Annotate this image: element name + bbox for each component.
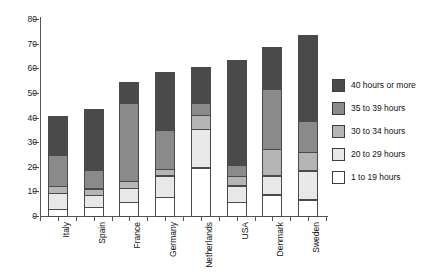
x-tick-mark: [129, 216, 130, 221]
bar-segment: [262, 195, 282, 217]
bar-segment: [119, 202, 139, 217]
plot-area: [40, 19, 326, 216]
bar-germany: [155, 72, 175, 216]
bar-segment: [84, 170, 104, 190]
chart-legend: 40 hours or more35 to 39 hours30 to 34 h…: [332, 74, 432, 189]
x-axis-label: France: [133, 222, 142, 248]
bar-segment: [155, 176, 175, 198]
bar-segment: [298, 152, 318, 172]
y-tick-label: 70: [13, 40, 37, 49]
bar-segment: [262, 176, 282, 196]
bar-segment: [155, 130, 175, 169]
bar-segment: [155, 197, 175, 217]
x-tick-mark: [308, 216, 309, 221]
x-tick-mark: [219, 216, 220, 221]
x-tick-mark: [255, 216, 256, 221]
bar-segment: [119, 103, 139, 182]
bar-segment: [227, 202, 247, 217]
bar-segment: [191, 168, 211, 217]
bar-netherlands: [191, 67, 211, 216]
y-tick-label: 80: [13, 15, 37, 24]
bar-segment: [298, 200, 318, 217]
x-tick-mark: [290, 216, 291, 221]
bar-segment: [227, 165, 247, 177]
x-axis-label: Netherlands: [205, 222, 214, 268]
legend-swatch: [332, 148, 345, 161]
legend-label: 1 to 19 hours: [351, 173, 401, 182]
x-tick-mark: [237, 216, 238, 221]
legend-swatch: [332, 102, 345, 115]
legend-label: 40 hours or more: [351, 81, 416, 90]
bar-segment: [48, 116, 68, 155]
bar-segment: [155, 72, 175, 131]
bar-segment: [227, 186, 247, 203]
legend-item: 20 to 29 hours: [332, 143, 432, 165]
x-tick-mark: [112, 216, 113, 221]
x-axis-label: Spain: [98, 222, 107, 244]
y-tick-label: 30: [13, 138, 37, 147]
chart-root: 80706050403020100 ItalySpainFranceGerman…: [0, 0, 433, 280]
legend-swatch: [332, 125, 345, 138]
bar-segment: [298, 35, 318, 121]
legend-item: 1 to 19 hours: [332, 166, 432, 188]
bar-segment: [119, 82, 139, 104]
bar-segment: [262, 47, 282, 89]
bar-segment: [298, 171, 318, 201]
x-axis-label: Italy: [62, 222, 71, 238]
y-tick-label: 10: [13, 187, 37, 196]
bar-usa: [227, 60, 247, 216]
bar-spain: [84, 109, 104, 216]
legend-label: 20 to 29 hours: [351, 150, 405, 159]
bar-segment: [191, 129, 211, 168]
y-tick-label: 40: [13, 114, 37, 123]
bar-segment: [191, 103, 211, 115]
x-tick-mark: [272, 216, 273, 221]
x-axis-label: Denmark: [276, 222, 285, 256]
y-tick-label: 60: [13, 64, 37, 73]
x-tick-mark: [183, 216, 184, 221]
x-tick-mark: [76, 216, 77, 221]
bar-segment: [298, 121, 318, 153]
bar-denmark: [262, 47, 282, 216]
bar-segment: [48, 209, 68, 216]
bar-segment: [84, 195, 104, 207]
bar-italy: [48, 116, 68, 216]
x-tick-mark: [326, 216, 327, 221]
bar-segment: [262, 149, 282, 176]
x-tick-mark: [165, 216, 166, 221]
bar-segment: [262, 89, 282, 151]
y-tick-label: 0: [13, 212, 37, 221]
x-tick-mark: [94, 216, 95, 221]
bar-sweden: [298, 35, 318, 216]
x-tick-mark: [58, 216, 59, 221]
bar-segment: [48, 155, 68, 187]
bar-segment: [119, 188, 139, 203]
legend-item: 40 hours or more: [332, 74, 432, 96]
bar-france: [119, 82, 139, 216]
legend-item: 35 to 39 hours: [332, 97, 432, 119]
bar-segment: [227, 60, 247, 166]
y-tick-label: 50: [13, 89, 37, 98]
bar-segment: [191, 67, 211, 104]
x-axis-label: USA: [241, 222, 250, 239]
bar-segment: [84, 109, 104, 171]
x-tick-mark: [147, 216, 148, 221]
bar-segment: [191, 115, 211, 130]
x-tick-mark: [201, 216, 202, 221]
x-axis-label: Sweden: [312, 222, 321, 253]
x-tick-mark: [40, 216, 41, 221]
legend-label: 30 to 34 hours: [351, 127, 405, 136]
legend-swatch: [332, 79, 345, 92]
legend-item: 30 to 34 hours: [332, 120, 432, 142]
bar-segment: [48, 193, 68, 210]
y-tick-label: 20: [13, 163, 37, 172]
legend-label: 35 to 39 hours: [351, 104, 405, 113]
legend-swatch: [332, 171, 345, 184]
x-axis-label: Germany: [169, 222, 178, 257]
bar-segment: [84, 207, 104, 217]
